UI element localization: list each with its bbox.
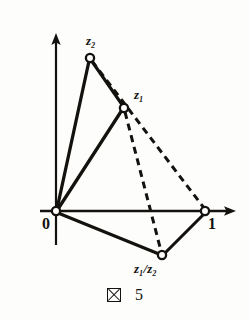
point-label-z1: z₁	[134, 88, 144, 101]
figure-number: 5	[135, 286, 143, 303]
node-unit[interactable]	[201, 207, 209, 215]
point-label-z1-over-z2: z₁/z₂	[134, 262, 157, 275]
zu-kanji-icon	[107, 288, 121, 302]
node-z1[interactable]	[120, 104, 128, 112]
point-label-unit: 1	[208, 216, 216, 232]
node-z2[interactable]	[86, 54, 94, 62]
node-origin[interactable]	[52, 207, 60, 215]
edge-origin-to-ratio	[58, 213, 159, 254]
complex-plane-diagram	[0, 0, 250, 320]
figure-caption: 5	[0, 286, 250, 304]
edge-z2-to-z1	[91, 60, 123, 106]
solid-edges-group	[57, 60, 204, 254]
edge-z1-to-ratio-dashed	[125, 112, 161, 251]
node-ratio[interactable]	[158, 251, 166, 259]
edge-ratio-to-unit	[165, 214, 204, 253]
point-label-z2: z₂	[86, 34, 96, 47]
point-label-origin: 0	[42, 216, 50, 232]
vertex-markers-group	[52, 54, 209, 259]
figure-container: z₂ z₁ z₁/z₂ 0 1 5	[0, 0, 250, 320]
dashed-edges-group	[92, 61, 204, 251]
